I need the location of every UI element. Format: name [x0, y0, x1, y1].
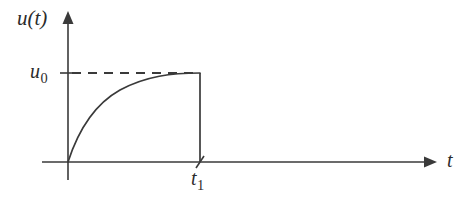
waveform-figure: u(t) u0 t1 t [0, 0, 474, 205]
exponential-rise-curve [68, 73, 200, 162]
amplitude-label-subscript: 0 [41, 70, 48, 86]
time-label-t1: t1 [191, 168, 204, 192]
y-axis [63, 11, 74, 180]
x-axis-arrowhead [424, 157, 437, 168]
time-label-base: t [191, 167, 197, 189]
x-axis-label: t [447, 150, 453, 170]
y-axis-label: u(t) [17, 8, 47, 29]
amplitude-label-base: u [30, 60, 40, 82]
y-axis-arrowhead [63, 11, 74, 24]
plot-canvas [0, 0, 474, 205]
x-axis [42, 157, 437, 168]
amplitude-label-u0: u0 [30, 61, 48, 85]
time-label-subscript: 1 [197, 177, 204, 193]
